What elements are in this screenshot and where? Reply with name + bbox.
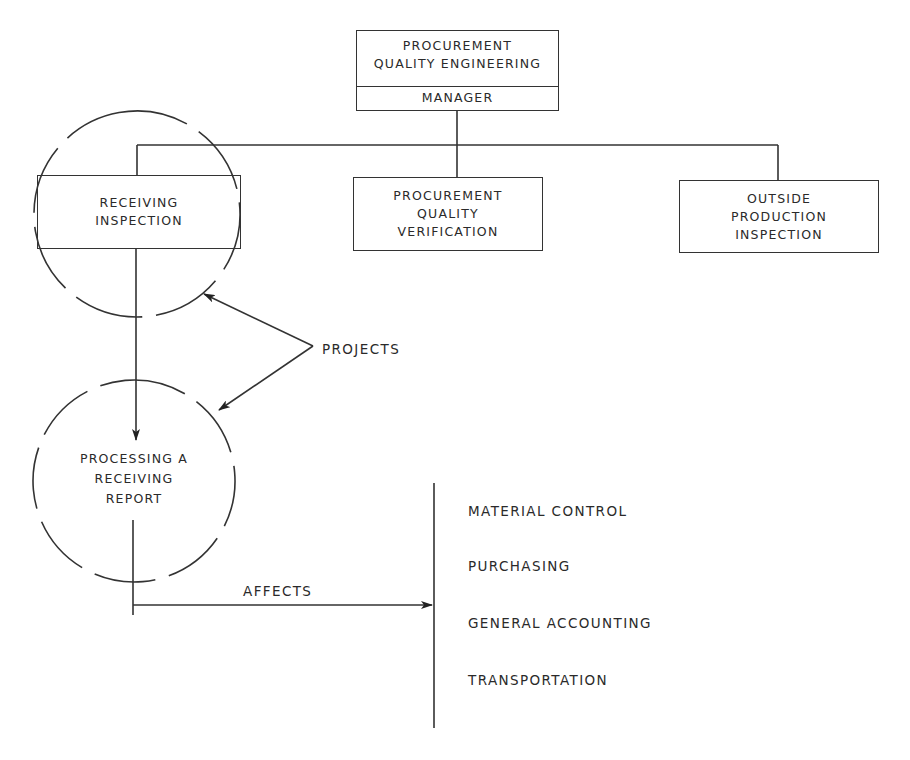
top-box-role: MANAGER (422, 89, 494, 107)
affects-label: AFFECTS (243, 583, 312, 599)
affected-area-general-accounting: GENERAL ACCOUNTING (468, 615, 652, 631)
affected-area-transportation: TRANSPORTATION (468, 672, 608, 688)
top-box-title-line-1: PROCUREMENT (403, 37, 512, 55)
top-box-title-line-2: QUALITY ENGINEERING (374, 55, 541, 73)
dept-outside-production-inspection: OUTSIDE PRODUCTION INSPECTION (679, 180, 879, 253)
dept-line: QUALITY (417, 205, 479, 223)
process-line: RECEIVING (54, 469, 214, 489)
affected-area-purchasing: PURCHASING (468, 558, 571, 574)
top-box-manager: PROCUREMENT QUALITY ENGINEERING MANAGER (356, 30, 559, 111)
process-circle-text: PROCESSING A RECEIVING REPORT (54, 449, 214, 509)
dept-line: PROCUREMENT (393, 187, 502, 205)
process-line: PROCESSING A (54, 449, 214, 469)
dept-line: INSPECTION (735, 226, 823, 244)
dept-line: INSPECTION (95, 212, 183, 230)
dept-line: OUTSIDE (747, 190, 811, 208)
diagram-lines (0, 0, 910, 760)
process-line: REPORT (54, 489, 214, 509)
manager-divider (356, 86, 559, 87)
dept-receiving-inspection: RECEIVING INSPECTION (37, 175, 241, 249)
projects-label: PROJECTS (322, 341, 400, 357)
affected-area-material-control: MATERIAL CONTROL (468, 503, 627, 519)
dept-procurement-quality-verification: PROCUREMENT QUALITY VERIFICATION (353, 177, 543, 251)
dept-line: RECEIVING (100, 194, 179, 212)
dept-line: VERIFICATION (398, 223, 499, 241)
dept-line: PRODUCTION (731, 208, 827, 226)
